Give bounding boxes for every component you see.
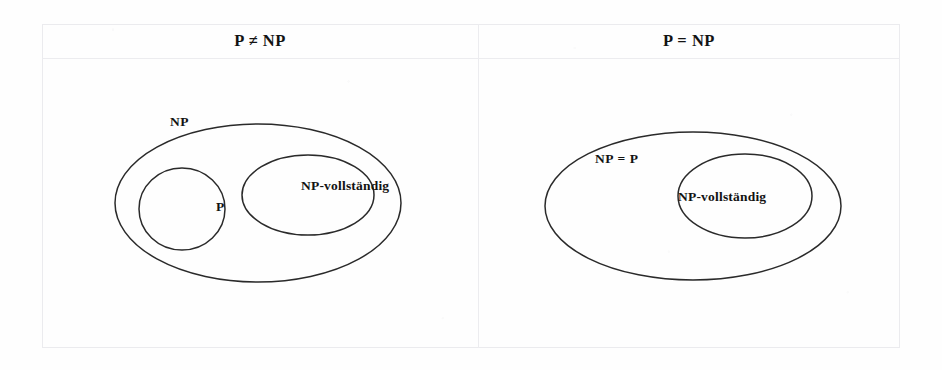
set-label-np: NP: [170, 115, 189, 129]
column-header-p-equals-np: P = NP: [478, 27, 900, 55]
set-label-p: P: [216, 200, 224, 214]
ellipse-np-outer: [115, 124, 401, 282]
column-header-p-not-equal-np: P ≠ NP: [42, 27, 478, 55]
figure-root: P ≠ NP P = NP NP P NP-vollständig NP = P…: [0, 0, 942, 370]
set-label-np-complete: NP-vollständig: [301, 179, 389, 193]
set-label-np-complete: NP-vollständig: [678, 190, 766, 204]
diagram-p-not-equal-np: NP P NP-vollständig: [42, 58, 478, 348]
ellipse-np-complete-left: [242, 155, 374, 235]
circle-p: [139, 168, 225, 250]
ellipse-np-equals-p-outer: [545, 132, 841, 280]
diagram-p-equals-np: NP = P NP-vollständig: [478, 58, 900, 348]
venn-svg-left: [42, 58, 478, 348]
set-label-np-equals-p: NP = P: [595, 152, 639, 166]
